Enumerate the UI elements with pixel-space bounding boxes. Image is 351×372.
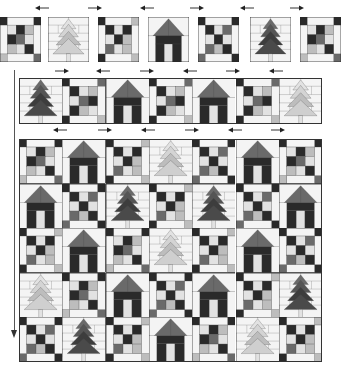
nine-patch-block-icon xyxy=(62,273,105,318)
right-arrow-icon xyxy=(290,5,304,11)
house-block-icon xyxy=(106,273,149,318)
tree-block-icon xyxy=(106,184,149,229)
house-block-icon xyxy=(236,139,279,184)
nine-patch-block-icon xyxy=(279,139,322,184)
left-arrow-icon xyxy=(96,68,110,74)
nine-patch-block-icon xyxy=(0,17,41,62)
house-block-icon xyxy=(192,273,235,318)
nine-patch-block-icon xyxy=(19,139,62,184)
nine-patch-block-icon xyxy=(236,78,279,124)
left-arrow-icon xyxy=(53,127,67,133)
nine-patch-block-icon xyxy=(198,17,239,62)
nine-patch-block-icon xyxy=(149,184,192,229)
house-block-icon xyxy=(192,78,235,124)
nine-patch-block-icon xyxy=(19,228,62,273)
left-arrow-icon xyxy=(140,5,154,11)
nine-patch-block-icon xyxy=(98,17,139,62)
assembly-direction-line xyxy=(14,70,15,332)
tree-block-icon xyxy=(149,228,192,273)
right-arrow-icon xyxy=(271,127,285,133)
tree-block-icon xyxy=(250,17,291,62)
nine-patch-block-icon xyxy=(192,228,235,273)
house-block-icon xyxy=(62,139,105,184)
nine-patch-block-icon xyxy=(62,78,105,124)
left-arrow-icon xyxy=(35,5,49,11)
tree-block-icon xyxy=(149,139,192,184)
tree-block-icon xyxy=(279,78,322,124)
nine-patch-block-icon xyxy=(192,139,235,184)
left-arrow-icon xyxy=(228,127,242,133)
tree-block-icon xyxy=(279,273,322,318)
house-block-icon xyxy=(148,17,189,62)
nine-patch-block-icon xyxy=(300,17,341,62)
nine-patch-block-icon xyxy=(149,273,192,318)
house-block-icon xyxy=(279,184,322,229)
down-arrow-icon xyxy=(11,330,17,338)
nine-patch-block-icon xyxy=(236,184,279,229)
right-arrow-icon xyxy=(140,68,154,74)
left-arrow-icon xyxy=(183,68,197,74)
nine-patch-block-icon xyxy=(106,228,149,273)
left-arrow-icon xyxy=(141,127,155,133)
tree-block-icon xyxy=(48,17,89,62)
house-block-icon xyxy=(236,228,279,273)
house-block-icon xyxy=(149,317,192,362)
right-arrow-icon xyxy=(55,68,69,74)
right-arrow-icon xyxy=(226,68,240,74)
left-arrow-icon xyxy=(240,5,254,11)
house-block-icon xyxy=(19,184,62,229)
nine-patch-block-icon xyxy=(106,317,149,362)
house-block-icon xyxy=(62,228,105,273)
right-arrow-icon xyxy=(185,127,199,133)
left-arrow-icon xyxy=(269,68,283,74)
nine-patch-block-icon xyxy=(106,139,149,184)
tree-block-icon xyxy=(236,317,279,362)
nine-patch-block-icon xyxy=(19,317,62,362)
nine-patch-block-icon xyxy=(279,228,322,273)
tree-block-icon xyxy=(19,78,62,124)
tree-block-icon xyxy=(19,273,62,318)
tree-block-icon xyxy=(62,317,105,362)
tree-block-icon xyxy=(192,184,235,229)
nine-patch-block-icon xyxy=(62,184,105,229)
nine-patch-block-icon xyxy=(279,317,322,362)
nine-patch-block-icon xyxy=(192,317,235,362)
nine-patch-block-icon xyxy=(149,78,192,124)
house-block-icon xyxy=(106,78,149,124)
nine-patch-block-icon xyxy=(236,273,279,318)
right-arrow-icon xyxy=(190,5,204,11)
right-arrow-icon xyxy=(88,5,102,11)
right-arrow-icon xyxy=(98,127,112,133)
